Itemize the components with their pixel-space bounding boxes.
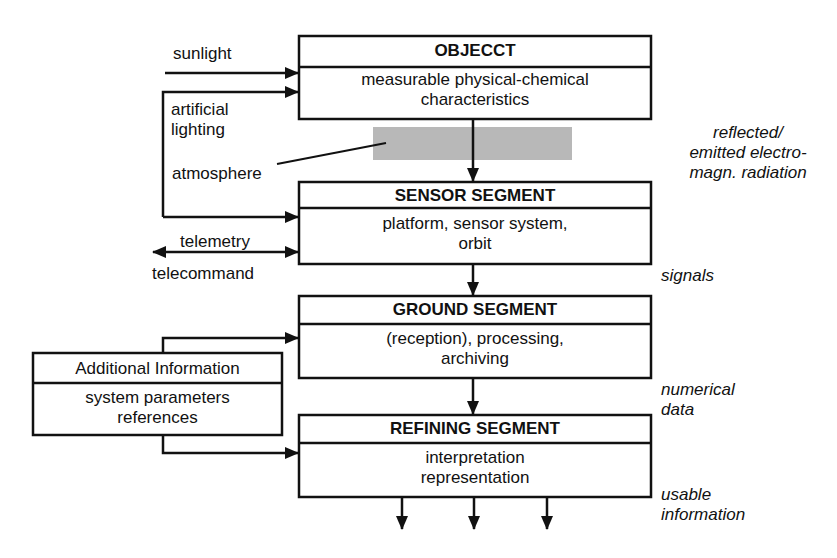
object-body-line-2: characteristics bbox=[299, 90, 651, 110]
additional-to-refining-arrow bbox=[163, 435, 298, 453]
usable-information-line-1: usable bbox=[661, 485, 745, 505]
usable-information-label: usable information bbox=[661, 485, 745, 525]
radiation-label: reflected/ emitted electro- magn. radiat… bbox=[668, 123, 828, 183]
radiation-line-2: emitted electro- bbox=[668, 143, 828, 163]
sunlight-label: sunlight bbox=[173, 44, 232, 64]
ground-body-line-1: (reception), processing, bbox=[299, 329, 651, 349]
ground-segment-title: GROUND SEGMENT bbox=[299, 296, 651, 324]
radiation-line-1: reflected/ bbox=[668, 123, 828, 143]
object-body: measurable physical-chemical characteris… bbox=[299, 70, 651, 110]
numerical-data-line-1: numerical bbox=[661, 380, 735, 400]
sensor-body-line-2: orbit bbox=[299, 234, 651, 254]
artificial-lighting-line-2: lighting bbox=[171, 120, 229, 140]
usable-information-line-2: information bbox=[661, 505, 745, 525]
refining-segment-title: REFINING SEGMENT bbox=[299, 415, 651, 443]
sensor-body-line-1: platform, sensor system, bbox=[299, 214, 651, 234]
radiation-line-3: magn. radiation bbox=[668, 163, 828, 183]
ground-body-line-2: archiving bbox=[299, 349, 651, 369]
signals-label: signals bbox=[661, 266, 714, 286]
refining-body-line-2: representation bbox=[299, 468, 651, 488]
telecommand-label: telecommand bbox=[152, 264, 254, 284]
artificial-lighting-label: artificial lighting bbox=[171, 100, 229, 140]
numerical-data-label: numerical data bbox=[661, 380, 735, 420]
atmosphere-label: atmosphere bbox=[172, 164, 262, 184]
sensor-segment-body: platform, sensor system, orbit bbox=[299, 214, 651, 254]
sensor-segment-title: SENSOR SEGMENT bbox=[299, 182, 651, 208]
atmosphere-pointer bbox=[277, 143, 386, 164]
additional-information-body: system parameters references bbox=[33, 388, 282, 428]
additional-body-line-2: references bbox=[33, 408, 282, 428]
additional-to-ground-arrow bbox=[163, 338, 298, 353]
additional-body-line-1: system parameters bbox=[33, 388, 282, 408]
ground-segment-body: (reception), processing, archiving bbox=[299, 329, 651, 369]
object-body-line-1: measurable physical-chemical bbox=[299, 70, 651, 90]
telemetry-label: telemetry bbox=[180, 232, 250, 252]
additional-information-title: Additional Information bbox=[33, 358, 282, 380]
refining-body-line-1: interpretation bbox=[299, 448, 651, 468]
refining-segment-body: interpretation representation bbox=[299, 448, 651, 488]
artificial-lighting-line-1: artificial bbox=[171, 100, 229, 120]
numerical-data-line-2: data bbox=[661, 400, 735, 420]
object-title: OBJECCT bbox=[299, 36, 651, 67]
